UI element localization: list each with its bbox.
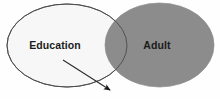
venn-label-education: Education — [29, 39, 81, 51]
venn-label-adult: Adult — [143, 39, 171, 51]
venn-diagram-canvas: Education Adult — [0, 0, 220, 99]
venn-diagram-svg: Education Adult — [0, 0, 220, 99]
